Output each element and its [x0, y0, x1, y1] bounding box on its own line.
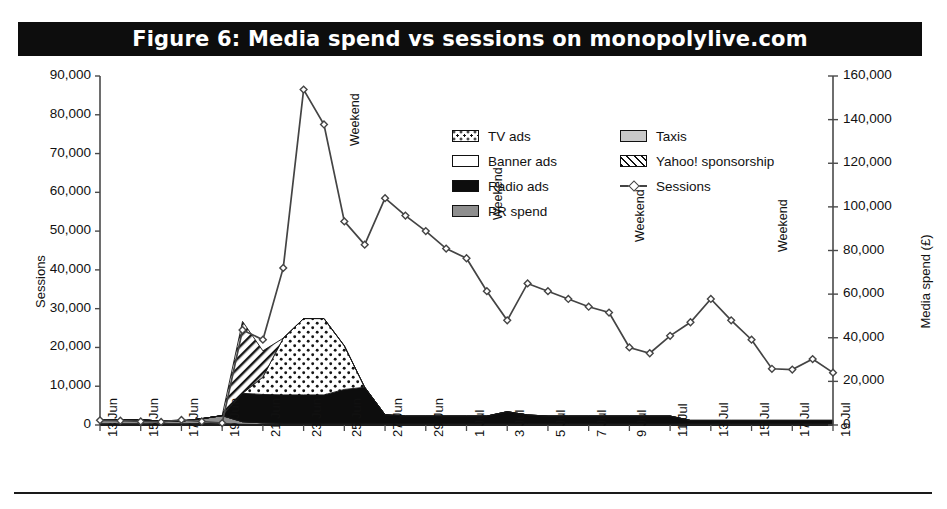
- y-tick-label-left: 90,000: [21, 67, 91, 82]
- figure-title-bar: Figure 6: Media spend vs sessions on mon…: [18, 22, 922, 56]
- x-tick-label: 5 Jul: [553, 410, 568, 437]
- y-tick-label-right: 160,000: [843, 67, 923, 82]
- x-tick-label: 7 Jul: [594, 410, 609, 437]
- y-tick-label-left: 10,000: [21, 377, 91, 392]
- y-tick-label-left: 30,000: [21, 300, 91, 315]
- legend-label: Sessions: [656, 179, 711, 194]
- tv-ads-swatch: [452, 130, 479, 142]
- banner-ads-swatch: [452, 155, 479, 167]
- y-tick-label-left: 70,000: [21, 145, 91, 160]
- sessions-data-point[interactable]: [626, 344, 633, 351]
- legend-item-banner-ads[interactable]: Banner ads: [452, 151, 557, 171]
- sessions-data-point[interactable]: [565, 296, 572, 303]
- x-tick-label: 15 Jun: [146, 398, 161, 437]
- x-tick-label: 17 Jun: [186, 398, 201, 437]
- x-tick-label: 15 Jul: [757, 402, 772, 437]
- x-tick-label: 25 Jun: [349, 398, 364, 437]
- y-tick-label-right: 0: [843, 416, 923, 431]
- legend-label: Banner ads: [488, 154, 557, 169]
- y-tick-label-right: 120,000: [843, 154, 923, 169]
- legend-item-radio-ads[interactable]: Radio ads: [452, 176, 549, 196]
- x-tick-label: 11 Jul: [675, 403, 690, 437]
- x-tick-label: 21 Jun: [268, 398, 283, 437]
- x-tick-label: 13 Jun: [105, 398, 120, 437]
- legend-item-tv-ads[interactable]: TV ads: [452, 126, 531, 146]
- legend-item-taxis[interactable]: Taxis: [620, 126, 687, 146]
- legend-label: Taxis: [656, 129, 687, 144]
- y-tick-label-left: 80,000: [21, 106, 91, 121]
- figure-container: Figure 6: Media spend vs sessions on mon…: [0, 0, 947, 509]
- sessions-data-point[interactable]: [300, 86, 307, 93]
- legend-item-yahoo-sponsorship[interactable]: Yahoo! sponsorship: [620, 151, 774, 171]
- legend-item-sessions[interactable]: Sessions: [620, 176, 711, 196]
- legend-label: PR spend: [488, 204, 547, 219]
- page-title: Figure 6: Media spend vs sessions on mon…: [132, 27, 808, 51]
- x-tick-label: 23 Jun: [309, 398, 324, 437]
- y-tick-label-right: 20,000: [843, 372, 923, 387]
- pr-spend-swatch: [452, 205, 479, 217]
- legend-label: Yahoo! sponsorship: [656, 154, 774, 169]
- sessions-data-point[interactable]: [259, 336, 266, 343]
- x-tick-label: 19 Jul: [838, 402, 853, 437]
- x-tick-label: 27 Jun: [390, 398, 405, 437]
- sessions-line-marker: [620, 180, 647, 192]
- legend-label: Radio ads: [488, 179, 549, 194]
- sessions-data-point[interactable]: [321, 121, 328, 128]
- x-tick-label: 13 Jul: [716, 402, 731, 437]
- sessions-data-point[interactable]: [585, 303, 592, 310]
- y-tick-label-left: 60,000: [21, 183, 91, 198]
- x-tick-label: 3 Jul: [512, 410, 527, 437]
- sessions-data-point[interactable]: [280, 265, 287, 272]
- y-tick-label-left: 20,000: [21, 338, 91, 353]
- yahoo-sponsorship-swatch: [620, 155, 647, 167]
- chart-legend: TV adsBanner adsRadio adsPR spendTaxisYa…: [452, 126, 817, 222]
- y-tick-label-right: 140,000: [843, 111, 923, 126]
- y-tick-label-right: 40,000: [843, 329, 923, 344]
- x-tick-label: 1 Jul: [472, 410, 487, 437]
- sessions-data-point[interactable]: [524, 280, 531, 287]
- taxis-swatch: [620, 130, 647, 142]
- y-tick-label-left: 50,000: [21, 222, 91, 237]
- legend-label: TV ads: [488, 129, 531, 144]
- sessions-data-point[interactable]: [789, 366, 796, 373]
- y-tick-label-left: 0: [21, 416, 91, 431]
- y-tick-label-left: 40,000: [21, 261, 91, 276]
- x-tick-label: 19 Jun: [227, 398, 242, 437]
- y-tick-label-right: 60,000: [843, 285, 923, 300]
- x-tick-label: 17 Jul: [797, 402, 812, 437]
- plot-area: Sessions Media spend (£) 90,00080,00070,…: [0, 60, 947, 440]
- y-tick-label-right: 80,000: [843, 242, 923, 257]
- chart-svg: [0, 60, 947, 440]
- radio-ads-swatch: [452, 180, 479, 192]
- sessions-data-point[interactable]: [606, 309, 613, 316]
- legend-item-pr-spend[interactable]: PR spend: [452, 201, 547, 221]
- x-tick-label: 29 Jun: [431, 398, 446, 437]
- y-axis-left-title: Sessions: [33, 222, 48, 342]
- y-tick-label-right: 100,000: [843, 198, 923, 213]
- sessions-data-point[interactable]: [545, 288, 552, 295]
- figure-bottom-rule: [14, 492, 932, 494]
- weekend-annotation: Weekend: [348, 93, 362, 146]
- x-tick-label: 9 Jul: [634, 410, 649, 437]
